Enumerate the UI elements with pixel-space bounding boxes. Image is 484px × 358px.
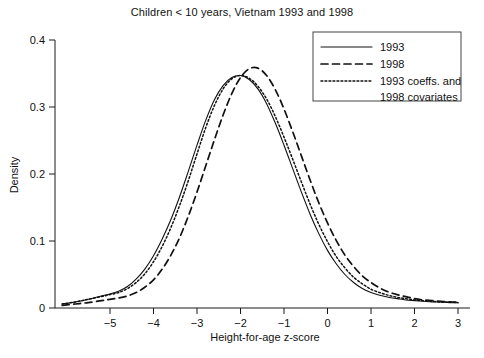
- y-tick-label: 0.2: [30, 168, 45, 180]
- curve-solid: [62, 75, 458, 304]
- legend-label: 1993: [380, 41, 404, 53]
- curve-dashed: [62, 67, 458, 305]
- x-tick-label: 3: [455, 317, 461, 329]
- y-axis-title: Density: [8, 156, 20, 193]
- chart-legend: 199319981993 coeffs. and1998 covariates: [313, 32, 461, 103]
- x-tick-label: 1: [368, 317, 374, 329]
- curve-dotted: [62, 76, 458, 304]
- plot-area: 00.10.20.30.4 −5−4−3−2−10123 Height-for-…: [0, 0, 484, 358]
- x-tick-label: −4: [147, 317, 160, 329]
- x-axis-ticks: −5−4−3−2−10123: [104, 308, 461, 329]
- legend-label: 1998: [380, 58, 404, 70]
- y-tick-label: 0.1: [30, 235, 45, 247]
- density-curves: [62, 67, 458, 305]
- x-tick-label: 0: [324, 317, 330, 329]
- y-tick-label: 0.3: [30, 101, 45, 113]
- legend-label-line2: 1998 covariates: [380, 91, 458, 103]
- chart-figure: Children < 10 years, Vietnam 1993 and 19…: [0, 0, 484, 358]
- x-tick-label: −5: [104, 317, 117, 329]
- y-axis-ticks: 00.10.20.30.4: [30, 34, 55, 314]
- x-tick-label: 2: [411, 317, 417, 329]
- x-tick-label: −1: [278, 317, 291, 329]
- legend-label: 1993 coeffs. and: [380, 75, 461, 87]
- y-tick-label: 0.4: [30, 34, 45, 46]
- x-tick-label: −2: [234, 317, 247, 329]
- x-axis-title: Height-for-age z-score: [210, 331, 319, 343]
- y-tick-label: 0: [39, 302, 45, 314]
- x-tick-label: −3: [191, 317, 204, 329]
